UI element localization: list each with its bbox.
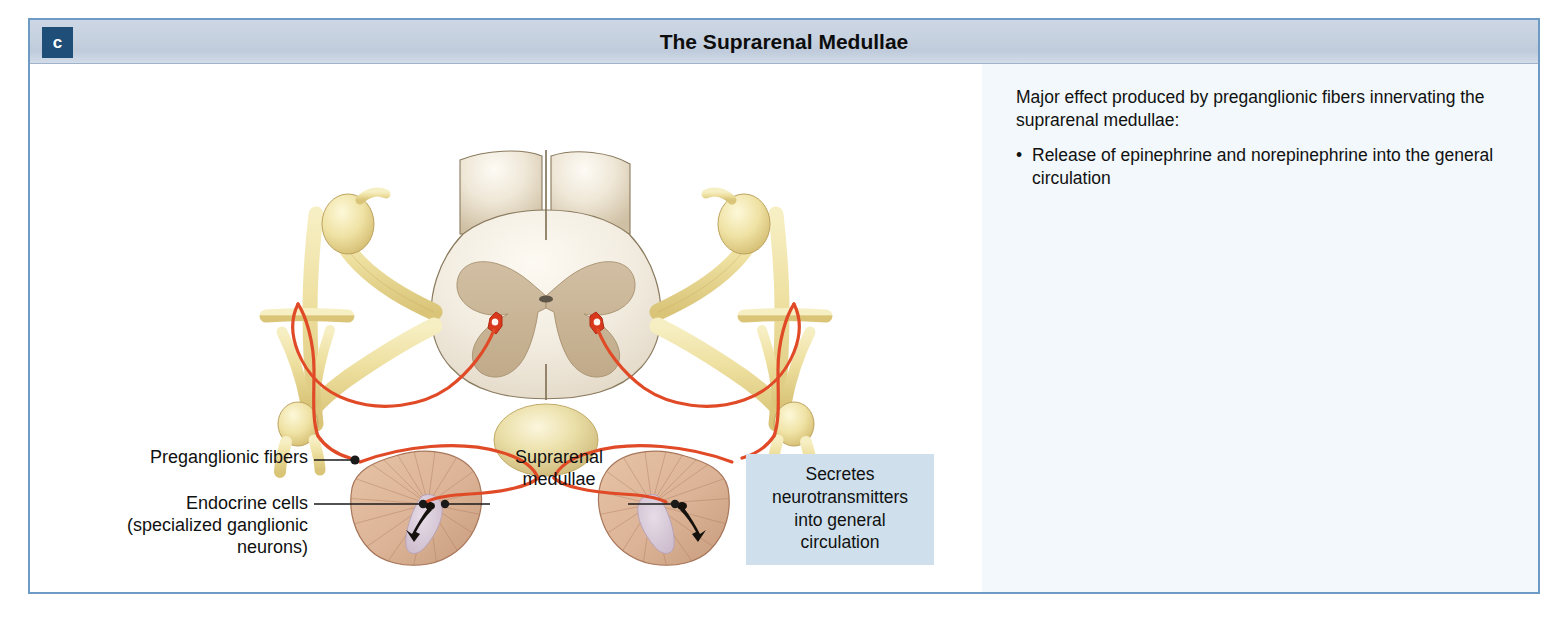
label-preganglionic-fibers: Preganglionic fibers [118, 447, 308, 469]
figure-frame: The Suprarenal Medullae c [28, 18, 1540, 594]
notes-bullet-list: Release of epinephrine and norepinephrin… [1016, 144, 1506, 191]
callout-secretes-neurotransmitters: Secretes neurotransmitters into general … [746, 454, 934, 565]
sympathetic-chain-ganglion-left [266, 192, 386, 472]
figure-title: The Suprarenal Medullae [30, 20, 1538, 64]
illustration-panel: Preganglionic fibers Endocrine cells (sp… [30, 64, 982, 592]
label-suprarenal-medullae-line1: Suprarenal [498, 447, 620, 469]
suprarenal-gland-left [344, 444, 488, 572]
notes-bullet-item: Release of epinephrine and norepinephrin… [1016, 144, 1506, 191]
callout-line3: into general [752, 509, 928, 532]
notes-intro-text: Major effect produced by preganglionic f… [1016, 86, 1486, 133]
figure-page: The Suprarenal Medullae c [0, 0, 1568, 618]
label-endocrine-cells-line2: (specialized ganglionic [70, 515, 308, 537]
figure-header-bar: The Suprarenal Medullae c [30, 20, 1538, 64]
panel-letter-badge: c [42, 27, 73, 58]
callout-line2: neurotransmitters [752, 486, 928, 509]
spinal-cord-cross-section [431, 150, 661, 400]
leader-dot-medulla-right [671, 500, 679, 508]
leader-dot-endocrine-left [419, 500, 427, 508]
figure-body: Preganglionic fibers Endocrine cells (sp… [30, 64, 1538, 592]
notes-panel: Major effect produced by preganglionic f… [982, 64, 1538, 592]
callout-line4: circulation [752, 531, 928, 554]
label-suprarenal-medullae: Suprarenal medullae [498, 447, 620, 491]
leader-dot-medulla-left [441, 500, 449, 508]
label-endocrine-cells: Endocrine cells (specialized ganglionic … [70, 493, 308, 559]
label-suprarenal-medullae-line2: medullae [498, 469, 620, 491]
sympathetic-chain-ganglion-right [706, 192, 826, 472]
callout-line1: Secretes [752, 463, 928, 486]
label-endocrine-cells-line3: neurons) [70, 537, 308, 559]
label-endocrine-cells-line1: Endocrine cells [70, 493, 308, 515]
